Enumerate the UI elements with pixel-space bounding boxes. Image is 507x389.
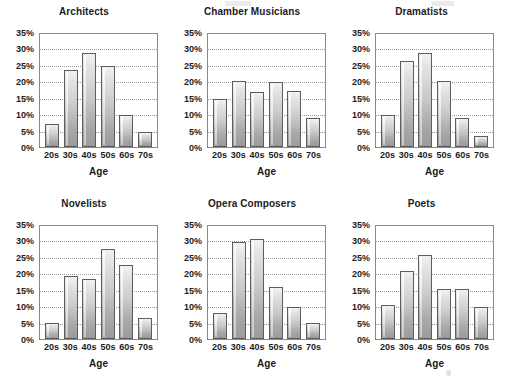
x-axis-tick-label: 50s: [436, 150, 452, 160]
bar-series: [376, 226, 493, 339]
x-axis-title: Age: [39, 166, 158, 177]
plot-area-wrapper: [39, 33, 158, 148]
y-axis-tick-label: 0%: [189, 143, 202, 153]
y-axis-tick-label: 20%: [352, 269, 370, 279]
x-axis-tick-label: 70s: [474, 342, 490, 352]
x-axis-tick-label: 50s: [100, 150, 116, 160]
y-axis-tick-label: 0%: [189, 335, 202, 345]
y-axis-tick-label: 25%: [352, 253, 370, 263]
bar: [232, 242, 246, 339]
y-axis-tick-label: 5%: [357, 319, 370, 329]
y-axis-tick-label: 35%: [184, 220, 202, 230]
chart-panel: Dramatists0%5%10%15%20%25%30%35%20s30s40…: [336, 0, 507, 192]
x-axis-tick-label: 60s: [455, 150, 471, 160]
plot-area: [375, 33, 494, 148]
chart-panel: Architects0%5%10%15%20%25%30%35%20s30s40…: [0, 0, 168, 192]
y-axis-tick-label: 5%: [21, 319, 34, 329]
y-axis-tick-labels: 0%5%10%15%20%25%30%35%: [168, 225, 204, 340]
x-axis-tick-label: 70s: [474, 150, 490, 160]
chart-panel: Chamber Musicians0%5%10%15%20%25%30%35%2…: [168, 0, 336, 192]
bar: [269, 82, 283, 147]
bar: [250, 92, 264, 147]
y-axis-tick-label: 35%: [352, 220, 370, 230]
x-axis-tick-label: 50s: [268, 342, 284, 352]
panel-title: Opera Composers: [168, 198, 336, 209]
y-axis-tick-labels: 0%5%10%15%20%25%30%35%: [0, 33, 36, 148]
y-axis-tick-label: 10%: [352, 110, 370, 120]
chart-panel: Novelists0%5%10%15%20%25%30%35%20s30s40s…: [0, 192, 168, 389]
bar: [306, 118, 320, 147]
bar: [213, 313, 227, 339]
x-axis-tick-label: 60s: [287, 150, 303, 160]
x-axis-tick-label: 40s: [81, 150, 97, 160]
bar: [64, 70, 78, 147]
y-axis-tick-labels: 0%5%10%15%20%25%30%35%: [0, 225, 36, 340]
bar: [381, 305, 395, 339]
bar: [45, 124, 59, 147]
y-axis-tick-label: 35%: [352, 28, 370, 38]
y-axis-tick-label: 15%: [184, 94, 202, 104]
y-axis-tick-label: 30%: [184, 44, 202, 54]
x-axis-title: Age: [207, 166, 326, 177]
bar: [101, 66, 115, 147]
y-axis-tick-label: 10%: [184, 110, 202, 120]
bar-series: [40, 34, 157, 147]
bar: [250, 239, 264, 339]
y-axis-tick-labels: 0%5%10%15%20%25%30%35%: [336, 33, 372, 148]
x-axis-tick-label: 40s: [249, 150, 265, 160]
x-axis-tick-label: 70s: [138, 150, 154, 160]
bar: [82, 53, 96, 147]
bar: [437, 81, 451, 147]
bar-chart-grid: Architects0%5%10%15%20%25%30%35%20s30s40…: [0, 0, 507, 389]
x-axis-tick-labels: 20s30s40s50s60s70s: [375, 342, 494, 352]
y-axis-tick-label: 35%: [16, 220, 34, 230]
bar: [306, 323, 320, 339]
bar: [213, 99, 227, 147]
bar: [138, 318, 152, 339]
y-axis-tick-label: 35%: [16, 28, 34, 38]
y-axis-tick-label: 25%: [184, 61, 202, 71]
y-axis-tick-label: 25%: [16, 253, 34, 263]
x-axis-tick-label: 30s: [398, 342, 414, 352]
plot-area: [375, 225, 494, 340]
x-axis-tick-label: 50s: [436, 342, 452, 352]
y-axis-tick-label: 5%: [21, 127, 34, 137]
x-axis-title: Age: [375, 166, 494, 177]
x-axis-title: Age: [39, 358, 158, 369]
plot-area-wrapper: [39, 225, 158, 340]
y-axis-tick-label: 10%: [16, 110, 34, 120]
y-axis-tick-label: 25%: [16, 61, 34, 71]
y-axis-tick-label: 0%: [21, 143, 34, 153]
y-axis-tick-label: 15%: [184, 286, 202, 296]
y-axis-tick-label: 20%: [184, 77, 202, 87]
y-axis-tick-label: 30%: [16, 44, 34, 54]
x-axis-tick-label: 30s: [62, 342, 78, 352]
bar: [455, 118, 469, 147]
y-axis-tick-label: 5%: [357, 127, 370, 137]
y-axis-tick-label: 25%: [352, 61, 370, 71]
plot-area-wrapper: [375, 33, 494, 148]
x-axis-tick-label: 20s: [379, 342, 395, 352]
y-axis-tick-label: 30%: [352, 44, 370, 54]
bar: [400, 271, 414, 339]
y-axis-tick-label: 10%: [16, 302, 34, 312]
panel-title: Dramatists: [336, 6, 507, 17]
bar: [138, 132, 152, 147]
panel-title: Novelists: [0, 198, 168, 209]
x-axis-tick-labels: 20s30s40s50s60s70s: [207, 342, 326, 352]
bar: [119, 115, 133, 147]
bar: [287, 91, 301, 148]
y-axis-tick-label: 15%: [16, 286, 34, 296]
plot-area: [207, 225, 326, 340]
y-axis-tick-label: 20%: [16, 77, 34, 87]
x-axis-tick-labels: 20s30s40s50s60s70s: [375, 150, 494, 160]
y-axis-tick-labels: 0%5%10%15%20%25%30%35%: [168, 33, 204, 148]
y-axis-tick-label: 15%: [352, 94, 370, 104]
plot-area-wrapper: [375, 225, 494, 340]
bar-series: [208, 226, 325, 339]
bar: [101, 249, 115, 339]
y-axis-tick-label: 0%: [357, 335, 370, 345]
bar: [269, 287, 283, 339]
bar: [418, 255, 432, 339]
y-axis-tick-label: 10%: [184, 302, 202, 312]
